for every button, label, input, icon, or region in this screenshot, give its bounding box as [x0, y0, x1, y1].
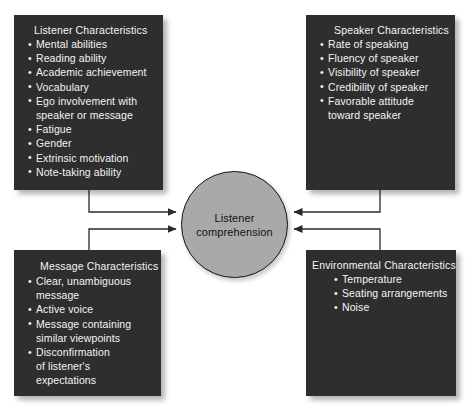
list-item: •Mental abilities	[28, 37, 163, 51]
bullet-icon: •	[28, 51, 32, 65]
bullet-icon: •	[320, 51, 324, 65]
box-title-environmental: Environmental Characteristics	[312, 259, 456, 271]
listener-comprehension-diagram: Listener comprehension Listener Characte…	[0, 0, 475, 416]
connector-speaker-to-center	[294, 190, 380, 212]
list-item-text: Credibility of speaker	[328, 81, 428, 93]
bullet-icon: •	[28, 65, 32, 79]
bullet-icon: •	[28, 150, 32, 164]
connector-listener-to-center	[89, 190, 176, 212]
list-item: •Vocabulary	[28, 80, 163, 94]
list-item: •Gender	[28, 136, 163, 150]
list-item-text: Ego involvement with	[36, 95, 137, 107]
box-listener-characteristics: Listener Characteristics •Mental abiliti…	[14, 15, 163, 190]
list-item: •Active voice	[28, 302, 161, 316]
bullet-icon: •	[28, 316, 32, 330]
box-list-message: •Clear, unambiguousmessage •Active voice…	[28, 274, 161, 388]
list-item-text: Active voice	[36, 303, 93, 315]
list-item-text-continuation: toward speaker	[328, 108, 455, 122]
list-item: •Ego involvement withspeaker or message	[28, 94, 163, 122]
list-item-text: Academic achievement	[36, 66, 147, 78]
bullet-icon: •	[334, 286, 338, 300]
list-item-text: Fatigue	[36, 123, 72, 135]
list-item-text: Reading ability	[36, 52, 106, 64]
list-item-text: Note-taking ability	[36, 166, 121, 178]
list-item-text: Mental abilities	[36, 38, 107, 50]
list-item-text: Message containing	[36, 318, 131, 330]
list-item: •Temperature	[334, 272, 456, 286]
bullet-icon: •	[320, 79, 324, 93]
box-title-message: Message Characteristics	[40, 260, 161, 272]
bullet-icon: •	[28, 122, 32, 136]
bullet-icon: •	[320, 93, 324, 107]
box-title-listener: Listener Characteristics	[34, 24, 163, 36]
box-list-environmental: •Temperature •Seating arrangements •Nois…	[334, 272, 456, 315]
box-message-characteristics: Message Characteristics •Clear, unambigu…	[14, 250, 161, 396]
list-item-text: Fluency of speaker	[328, 52, 419, 64]
list-item-text: Extrinsic motivation	[36, 152, 128, 164]
bullet-icon: •	[320, 37, 324, 51]
bullet-icon: •	[28, 37, 32, 51]
center-label-line2: comprehension	[196, 226, 273, 238]
list-item-text-continuation: of listener's	[36, 359, 161, 373]
bullet-icon: •	[28, 79, 32, 93]
list-item: •Fluency of speaker	[320, 51, 455, 65]
bullet-icon: •	[334, 272, 338, 286]
list-item-text: Clear, unambiguous	[36, 275, 131, 287]
list-item-text-continuation: message	[36, 288, 161, 302]
center-node-listener-comprehension: Listener comprehension	[181, 171, 288, 278]
list-item: •Credibility of speaker	[320, 80, 455, 94]
list-item: •Fatigue	[28, 122, 163, 136]
list-item: •Seating arrangements	[334, 286, 456, 300]
bullet-icon: •	[28, 302, 32, 316]
bullet-icon: •	[334, 300, 338, 314]
list-item-text: Vocabulary	[36, 81, 89, 93]
bullet-icon: •	[320, 65, 324, 79]
connector-message-to-center	[89, 229, 176, 250]
list-item-text: Rate of speaking	[328, 38, 408, 50]
list-item-text: Temperature	[342, 273, 402, 285]
list-item-text-continuation2: expectations	[36, 373, 161, 387]
list-item-text: Gender	[36, 137, 72, 149]
list-item: •Extrinsic motivation	[28, 151, 163, 165]
list-item: •Favorable attitudetoward speaker	[320, 94, 455, 122]
list-item: •Rate of speaking	[320, 37, 455, 51]
bullet-icon: •	[28, 274, 32, 288]
list-item-text: Disconfirmation	[36, 346, 110, 358]
list-item: •Clear, unambiguousmessage	[28, 274, 161, 302]
bullet-icon: •	[28, 345, 32, 359]
list-item: •Reading ability	[28, 51, 163, 65]
center-node-label: Listener comprehension	[196, 211, 273, 239]
list-item-text: Visibility of speaker	[328, 66, 420, 78]
list-item: •Disconfirmationof listener'sexpectation…	[28, 345, 161, 388]
list-item: •Note-taking ability	[28, 165, 163, 179]
list-item-text-continuation: speaker or message	[36, 108, 163, 122]
list-item: •Visibility of speaker	[320, 65, 455, 79]
list-item-text-continuation: similar viewpoints	[36, 331, 161, 345]
list-item-text: Favorable attitude	[328, 95, 414, 107]
list-item: •Noise	[334, 300, 456, 314]
center-label-line1: Listener	[215, 212, 255, 224]
connector-environmental-to-center	[294, 229, 380, 250]
list-item-text: Seating arrangements	[342, 287, 447, 299]
box-speaker-characteristics: Speaker Characteristics •Rate of speakin…	[306, 15, 455, 190]
bullet-icon: •	[28, 136, 32, 150]
list-item: •Academic achievement	[28, 65, 163, 79]
box-title-speaker: Speaker Characteristics	[334, 24, 455, 36]
list-item-text: Noise	[342, 301, 369, 313]
list-item: •Message containingsimilar viewpoints	[28, 317, 161, 345]
box-list-listener: •Mental abilities •Reading ability •Acad…	[28, 37, 163, 179]
box-environmental-characteristics: Environmental Characteristics •Temperatu…	[306, 250, 456, 396]
bullet-icon: •	[28, 164, 32, 178]
box-list-speaker: •Rate of speaking •Fluency of speaker •V…	[320, 37, 455, 122]
bullet-icon: •	[28, 93, 32, 107]
